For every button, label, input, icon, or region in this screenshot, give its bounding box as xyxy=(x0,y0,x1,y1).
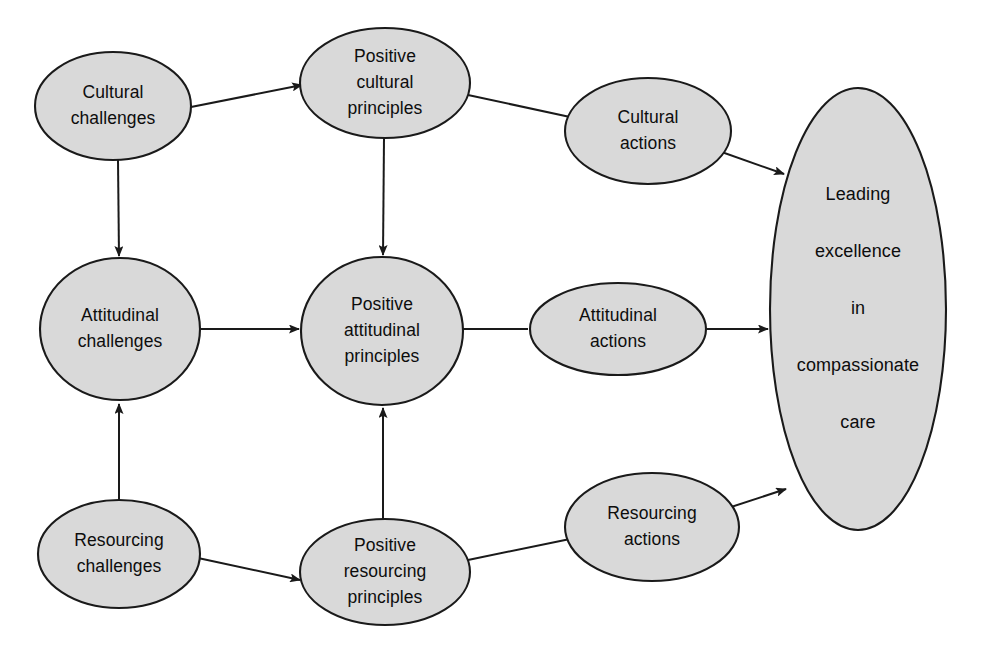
node-cultural-challenges[interactable]: Culturalchallenges xyxy=(35,52,191,160)
node-label-line: Attitudinal xyxy=(579,305,657,325)
node-positive-resourcing-principles[interactable]: Positiveresourcingprinciples xyxy=(300,519,470,625)
edge-cultural-challenges-to-positive-cultural-principles xyxy=(186,85,302,108)
node-shape-resourcing-challenges xyxy=(38,500,200,608)
node-resourcing-actions[interactable]: Resourcingactions xyxy=(565,473,739,581)
node-label-line: excellence xyxy=(815,241,901,261)
node-label-line: Resourcing xyxy=(74,530,164,550)
node-leading-excellence-goal[interactable]: Leadingexcellenceincompassionatecare xyxy=(770,88,946,530)
node-label-line: Positive xyxy=(351,294,413,314)
node-label-positive-attitudinal-principles: Positiveattitudinalprinciples xyxy=(344,294,420,366)
node-positive-attitudinal-principles[interactable]: Positiveattitudinalprinciples xyxy=(301,257,463,405)
node-label-line: Positive xyxy=(354,535,416,555)
edge-positive-cultural-principles-to-cultural-actions xyxy=(468,95,570,117)
node-label-line: care xyxy=(840,412,875,432)
node-shape-resourcing-actions xyxy=(565,473,739,581)
node-positive-cultural-principles[interactable]: Positiveculturalprinciples xyxy=(300,28,470,138)
node-label-line: attitudinal xyxy=(344,320,420,340)
node-label-positive-cultural-principles: Positiveculturalprinciples xyxy=(348,46,423,118)
node-label-line: principles xyxy=(345,346,420,366)
node-label-line: principles xyxy=(348,98,423,118)
node-label-line: Leading xyxy=(826,184,891,204)
diagram-canvas: CulturalchallengesPositiveculturalprinci… xyxy=(0,0,993,659)
node-label-line: actions xyxy=(624,529,680,549)
node-label-line: challenges xyxy=(78,331,163,351)
edge-cultural-challenges-to-attitudinal-challenges xyxy=(118,160,119,256)
node-attitudinal-actions[interactable]: Attitudinalactions xyxy=(530,283,706,375)
edge-cultural-actions-to-goal xyxy=(716,150,784,174)
edge-positive-resourcing-principles-to-resourcing-actions xyxy=(468,539,570,560)
node-label-line: Cultural xyxy=(617,107,678,127)
node-attitudinal-challenges[interactable]: Attitudinalchallenges xyxy=(40,258,200,400)
node-shape-attitudinal-challenges xyxy=(40,258,200,400)
node-shape-cultural-actions xyxy=(565,78,731,184)
node-label-line: actions xyxy=(620,133,676,153)
node-shape-cultural-challenges xyxy=(35,52,191,160)
node-label-line: Cultural xyxy=(82,82,143,102)
edge-resourcing-challenges-to-positive-resourcing-principles xyxy=(198,558,300,580)
node-label-line: challenges xyxy=(71,108,156,128)
node-label-line: Attitudinal xyxy=(81,305,159,325)
node-label-line: actions xyxy=(590,331,646,351)
edge-positive-cultural-principles-to-positive-attitudinal-principles xyxy=(383,138,384,255)
node-label-line: in xyxy=(851,298,865,318)
node-label-line: challenges xyxy=(77,556,162,576)
node-cultural-actions[interactable]: Culturalactions xyxy=(565,78,731,184)
node-label-positive-resourcing-principles: Positiveresourcingprinciples xyxy=(344,535,427,607)
node-label-line: principles xyxy=(348,587,423,607)
node-label-line: resourcing xyxy=(344,561,427,581)
diagram-svg: CulturalchallengesPositiveculturalprinci… xyxy=(0,0,993,659)
node-label-line: Positive xyxy=(354,46,416,66)
node-resourcing-challenges[interactable]: Resourcingchallenges xyxy=(38,500,200,608)
node-label-line: compassionate xyxy=(797,355,919,375)
nodes-layer: CulturalchallengesPositiveculturalprinci… xyxy=(35,28,946,625)
node-label-line: Resourcing xyxy=(607,503,697,523)
node-shape-attitudinal-actions xyxy=(530,283,706,375)
node-label-line: cultural xyxy=(356,72,413,92)
